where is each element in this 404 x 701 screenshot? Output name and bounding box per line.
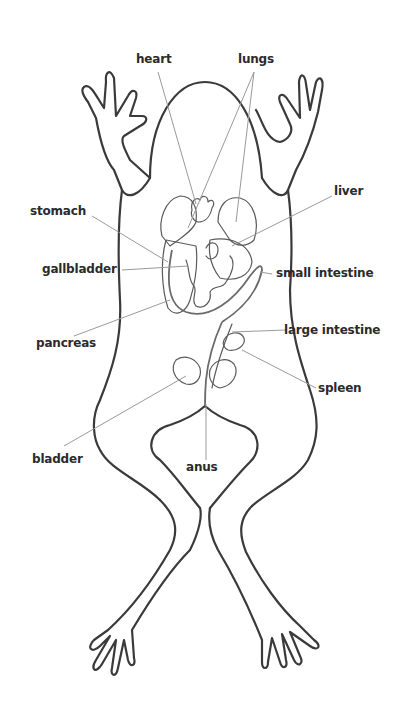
label-gallbladder: gallbladder: [42, 262, 117, 276]
frog-anatomy-diagram: heart lungs liver stomach gallbladder sm…: [0, 0, 404, 701]
label-spleen: spleen: [318, 381, 361, 395]
label-heart: heart: [136, 52, 171, 66]
frog-body-outline: [82, 72, 322, 675]
label-large-intestine: large intestine: [284, 323, 380, 337]
label-liver: liver: [334, 184, 363, 198]
label-anus: anus: [186, 460, 218, 474]
label-stomach: stomach: [30, 204, 86, 218]
label-lungs: lungs: [238, 52, 274, 66]
label-pancreas: pancreas: [36, 336, 96, 350]
label-bladder: bladder: [32, 452, 83, 466]
organs-drawing: [161, 196, 262, 406]
frog-outline-drawing: [0, 0, 404, 701]
label-small-intestine: small intestine: [276, 266, 373, 280]
